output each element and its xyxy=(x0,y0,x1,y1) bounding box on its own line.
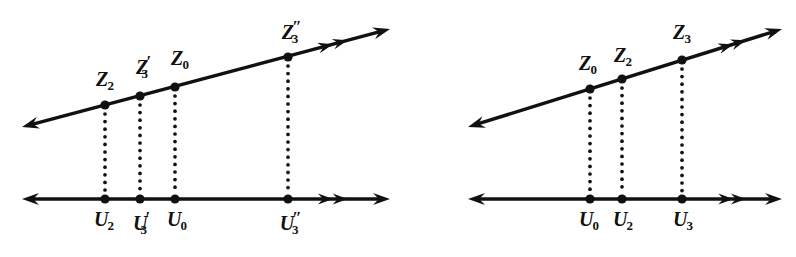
dotted-segment-dot xyxy=(286,133,290,137)
dotted-segment-dot xyxy=(588,157,592,161)
dotted-segment-dot xyxy=(173,109,177,113)
u-point-marker xyxy=(617,194,626,203)
dotted-segment-dot xyxy=(286,110,290,114)
label-subscript: 2 xyxy=(625,54,632,69)
label-u0: U0 xyxy=(579,209,599,232)
label-subscript: 2 xyxy=(627,218,634,233)
dotted-segment-dot xyxy=(680,105,684,109)
projection-dotted-line-right-1 xyxy=(620,86,624,188)
dotted-segment-dot xyxy=(103,127,107,131)
dotted-segment-dot xyxy=(286,178,290,182)
dotted-segment-dot xyxy=(103,150,107,154)
dotted-segment-dot xyxy=(286,171,290,175)
dotted-segment-dot xyxy=(680,113,684,117)
dotted-segment-dot xyxy=(620,117,624,121)
dotted-segment-dot xyxy=(588,111,592,115)
label-subscript: 3 xyxy=(141,222,148,237)
label-subscript: 3 xyxy=(292,222,299,237)
z-point-marker xyxy=(585,84,594,93)
label-subscript: 0 xyxy=(590,62,597,77)
z-point-marker xyxy=(677,55,686,64)
u-point-marker xyxy=(677,194,686,203)
dotted-segment-dot xyxy=(286,148,290,152)
dotted-segment-dot xyxy=(588,119,592,123)
dotted-segment-dot xyxy=(680,120,684,124)
label-u3-dprime: U″3 xyxy=(280,209,299,236)
dotted-segment-dot xyxy=(680,75,684,79)
label-subscript: 3 xyxy=(141,66,148,81)
label-u2: U2 xyxy=(94,209,114,232)
dotted-segment-dot xyxy=(680,90,684,94)
dotted-segment-dot xyxy=(286,186,290,190)
projection-dotted-line-left-2 xyxy=(173,94,177,189)
dotted-segment-dot xyxy=(286,95,290,99)
label-subscript: 2 xyxy=(107,78,114,93)
dotted-segment-dot xyxy=(173,132,177,136)
dotted-segment-dot xyxy=(620,177,624,181)
dotted-segment-dot xyxy=(286,72,290,76)
dotted-segment-dot xyxy=(588,149,592,153)
u-point-marker xyxy=(170,194,179,203)
dotted-segment-dot xyxy=(103,188,107,192)
dotted-segment-dot xyxy=(173,185,177,189)
dotted-segment-dot xyxy=(173,163,177,167)
dotted-segment-dot xyxy=(680,67,684,71)
dotted-segment-dot xyxy=(286,79,290,83)
label-u0: U0 xyxy=(167,209,187,232)
dotted-segment-dot xyxy=(620,86,624,90)
dotted-segment-dot xyxy=(588,172,592,176)
dotted-segment-dot xyxy=(680,166,684,170)
dotted-segment-dot xyxy=(138,118,142,122)
projection-dotted-line-left-1 xyxy=(138,103,142,190)
label-z0: Z0 xyxy=(579,53,597,76)
dotted-segment-dot xyxy=(173,147,177,151)
label-z3-prime: Z′3 xyxy=(136,53,148,80)
dotted-segment-dot xyxy=(286,163,290,167)
label-subscript: 3 xyxy=(687,218,694,233)
dotted-segment-dot xyxy=(138,134,142,138)
dotted-segment-dot xyxy=(138,141,142,145)
dotted-segment-dot xyxy=(588,96,592,100)
dotted-segment-dot xyxy=(680,174,684,178)
dotted-segment-dot xyxy=(680,189,684,193)
label-u3: U3 xyxy=(673,209,693,232)
dotted-segment-dot xyxy=(138,172,142,176)
dotted-segment-dot xyxy=(138,149,142,153)
label-base: U xyxy=(613,208,628,230)
dotted-segment-dot xyxy=(103,135,107,139)
dotted-segment-dot xyxy=(620,124,624,128)
dotted-segment-dot xyxy=(620,147,624,151)
panel-left xyxy=(22,28,390,205)
z-point-marker xyxy=(135,91,144,100)
dotted-segment-dot xyxy=(680,143,684,147)
dotted-segment-dot xyxy=(620,139,624,143)
dotted-segment-dot xyxy=(588,187,592,191)
label-z0: Z0 xyxy=(171,48,189,71)
label-z3-dprime: Z″3 xyxy=(282,18,299,45)
dotted-segment-dot xyxy=(173,125,177,129)
label-subscript: 3 xyxy=(684,31,691,46)
dotted-segment-dot xyxy=(173,140,177,144)
dotted-segment-dot xyxy=(588,165,592,169)
dotted-segment-dot xyxy=(173,94,177,98)
dotted-segment-dot xyxy=(286,102,290,106)
label-base: U xyxy=(579,208,594,230)
dotted-segment-dot xyxy=(138,111,142,115)
z-point-marker xyxy=(617,74,626,83)
u-point-marker xyxy=(283,194,292,203)
dotted-segment-dot xyxy=(680,82,684,86)
z-point-marker xyxy=(283,52,292,61)
label-base: U xyxy=(94,208,109,230)
dotted-segment-dot xyxy=(138,164,142,168)
label-subscript: 2 xyxy=(108,218,115,233)
label-z3: Z3 xyxy=(673,22,691,45)
dotted-segment-dot xyxy=(620,185,624,189)
dotted-segment-dot xyxy=(680,128,684,132)
projection-dotted-line-left-3 xyxy=(286,64,290,189)
dotted-segment-dot xyxy=(138,179,142,183)
z-point-marker xyxy=(100,100,109,109)
projection-dotted-line-left-0 xyxy=(103,112,107,192)
dotted-segment-dot xyxy=(103,181,107,185)
dotted-segment-dot xyxy=(103,143,107,147)
dotted-segment-dot xyxy=(286,125,290,129)
